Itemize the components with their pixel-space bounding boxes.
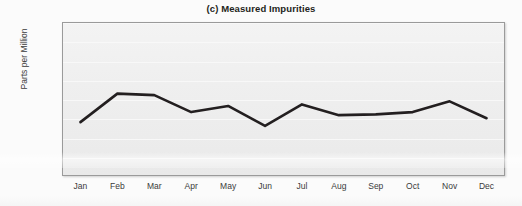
y-axis-title: Parts per Million bbox=[19, 0, 29, 119]
gridline bbox=[63, 23, 504, 24]
gridline bbox=[63, 62, 504, 63]
plot-area bbox=[62, 22, 505, 176]
x-tick-label: Dec bbox=[465, 181, 509, 191]
scan-artifact-band-lower bbox=[0, 196, 522, 206]
gridline bbox=[63, 42, 504, 43]
chart-title: (c) Measured Impurities bbox=[0, 3, 522, 14]
gridline bbox=[63, 100, 504, 101]
chart-figure: (c) Measured Impurities Parts per Millio… bbox=[0, 0, 522, 206]
gridline bbox=[63, 119, 504, 120]
gridline bbox=[63, 81, 504, 82]
gridline bbox=[63, 158, 504, 159]
gridline bbox=[63, 139, 504, 140]
